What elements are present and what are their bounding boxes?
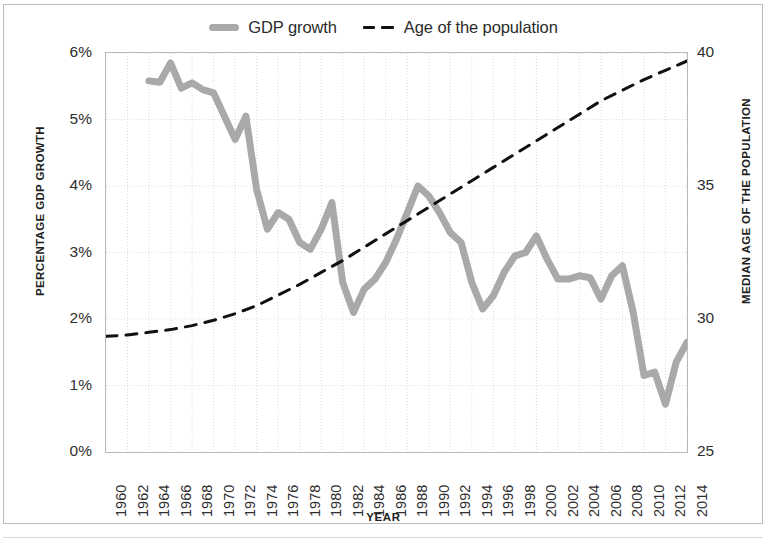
bottom-divider [3, 537, 763, 538]
y-tick-label-left: 5% [32, 110, 92, 128]
series-line-1 [149, 63, 687, 404]
x-tick-label: 1972 [242, 501, 258, 517]
x-tick-label: 1970 [221, 501, 237, 517]
y-tick-label-right: 25 [697, 442, 737, 460]
y-tick-label-left: 3% [32, 243, 92, 261]
x-tick-label: 2000 [543, 501, 559, 517]
x-tick-label: 1974 [264, 501, 280, 517]
x-tick-label: 1976 [285, 501, 301, 517]
x-tick-label: 1966 [178, 501, 194, 517]
x-tick-label: 2012 [672, 501, 688, 517]
y-tick-label-right: 35 [697, 176, 737, 194]
x-tick-label: 1986 [393, 501, 409, 517]
legend-label-gdp-growth: GDP growth [248, 18, 337, 37]
y-axis-title-right: MEDIAN AGE OF THE POPULATION [740, 81, 752, 321]
y-tick-label-left: 2% [32, 309, 92, 327]
x-tick-label: 2010 [651, 501, 667, 517]
x-tick-label: 1988 [414, 501, 430, 517]
x-tick-label: 2008 [629, 501, 645, 517]
x-tick-label: 1996 [500, 501, 516, 517]
y-tick-label-right: 30 [697, 309, 737, 327]
y-tick-label-left: 0% [32, 442, 92, 460]
chart-screenshot: GDP growth Age of the population PERCENT… [0, 0, 767, 546]
x-tick-label: 1960 [113, 501, 129, 517]
legend-label-age-of-population: Age of the population [404, 18, 558, 37]
y-tick-label-right: 40 [697, 43, 737, 61]
y-tick-label-left: 1% [32, 376, 92, 394]
x-tick-label: 1980 [328, 501, 344, 517]
solid-gray-line-swatch-icon [209, 24, 239, 31]
x-tick-label: 2014 [694, 501, 710, 517]
legend-entry-gdp-growth: GDP growth [209, 18, 337, 37]
x-tick-label: 2004 [586, 501, 602, 517]
x-tick-label: 1990 [436, 501, 452, 517]
plot-area [105, 52, 688, 453]
x-tick-label: 2002 [565, 501, 581, 517]
x-tick-label: 1968 [199, 501, 215, 517]
y-axis-title-left: PERCENTAGE GDP GROWTH [34, 111, 46, 311]
chart-legend: GDP growth Age of the population [0, 13, 767, 41]
legend-entry-age-of-population: Age of the population [363, 18, 558, 37]
x-tick-label: 1992 [457, 501, 473, 517]
dashed-black-line-swatch-icon [363, 22, 395, 33]
x-tick-label: 1982 [350, 501, 366, 517]
y-tick-label-left: 6% [32, 43, 92, 61]
y-tick-label-left: 4% [32, 176, 92, 194]
x-tick-label: 1994 [479, 501, 495, 517]
x-tick-label: 1964 [156, 501, 172, 517]
x-tick-label: 1998 [522, 501, 538, 517]
x-tick-label: 2006 [608, 501, 624, 517]
x-tick-label: 1962 [135, 501, 151, 517]
x-tick-label: 1978 [307, 501, 323, 517]
x-tick-label: 1984 [371, 501, 387, 517]
chart-canvas [106, 53, 687, 452]
